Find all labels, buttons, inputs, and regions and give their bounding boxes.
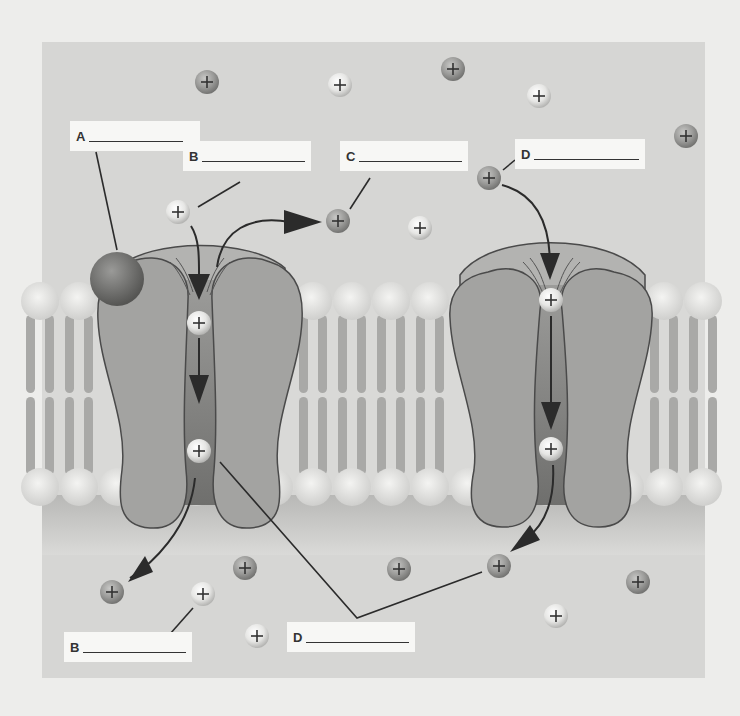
cation-ion-dark: [233, 556, 257, 580]
cation-ion-dark: [195, 70, 219, 94]
cation-ion-light: [527, 84, 551, 108]
phospholipid-head: [333, 468, 371, 506]
label-letter: D: [521, 148, 530, 161]
cation-ion-light: [539, 437, 563, 461]
label-letter: B: [70, 641, 79, 654]
label-D-bottom[interactable]: D: [287, 622, 415, 652]
cation-ion-dark: [441, 57, 465, 81]
ion-channel-diagram: [0, 0, 740, 716]
ligand-molecule: [90, 252, 144, 306]
cation-ion-dark: [626, 570, 650, 594]
answer-blank[interactable]: [306, 642, 409, 643]
cation-ion-light: [191, 582, 215, 606]
answer-blank[interactable]: [89, 141, 194, 142]
answer-blank[interactable]: [83, 652, 186, 653]
label-D-top[interactable]: D: [515, 139, 645, 169]
phospholipid-head: [21, 468, 59, 506]
cation-ion-dark: [674, 124, 698, 148]
phospholipid-head: [60, 468, 98, 506]
phospholipid-head: [21, 282, 59, 320]
cation-ion-dark: [326, 209, 350, 233]
answer-blank[interactable]: [359, 161, 462, 162]
label-C-top[interactable]: C: [340, 141, 468, 171]
answer-blank[interactable]: [202, 161, 305, 162]
phospholipid-head: [372, 282, 410, 320]
label-letter: C: [346, 150, 355, 163]
cation-ion-light: [328, 73, 352, 97]
phospholipid-head: [684, 282, 722, 320]
cation-ion-dark: [387, 557, 411, 581]
cation-ion-light: [187, 439, 211, 463]
label-B-top[interactable]: B: [183, 141, 311, 171]
phospholipid-head: [294, 468, 332, 506]
cation-ion-light: [408, 216, 432, 240]
label-B-bottom[interactable]: B: [64, 632, 192, 662]
label-A-top[interactable]: A: [70, 121, 200, 151]
phospholipid-head: [411, 468, 449, 506]
cation-ion-light: [544, 604, 568, 628]
cation-ion-dark: [477, 166, 501, 190]
cation-ion-light: [539, 288, 563, 312]
cation-ion-light: [245, 624, 269, 648]
cation-ion-light: [187, 311, 211, 335]
phospholipid-head: [645, 468, 683, 506]
phospholipid-head: [411, 282, 449, 320]
cation-ion-dark: [100, 580, 124, 604]
label-letter: B: [189, 150, 198, 163]
cation-ion-light: [166, 200, 190, 224]
answer-blank[interactable]: [534, 159, 639, 160]
phospholipid-head: [684, 468, 722, 506]
label-letter: A: [76, 130, 85, 143]
label-letter: D: [293, 631, 302, 644]
phospholipid-head: [372, 468, 410, 506]
cation-ion-dark: [487, 554, 511, 578]
phospholipid-head: [333, 282, 371, 320]
